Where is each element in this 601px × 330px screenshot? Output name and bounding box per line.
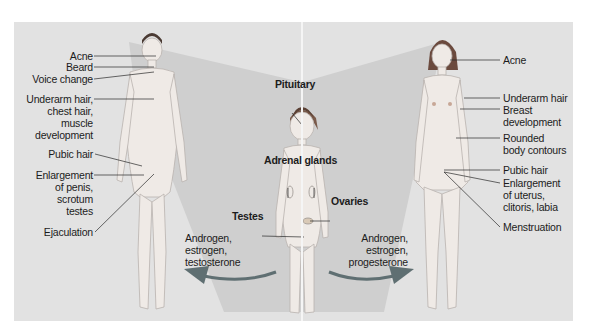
male-label-enlargement: Enlargement of penis, scrotum testes (10, 169, 93, 217)
male-label-voice-change: Voice change (20, 73, 93, 85)
panel-divider (301, 22, 303, 321)
diagram-artwork (14, 22, 573, 321)
female-label-acne: Acne (503, 54, 526, 66)
female-label-enlargement: Enlargement of uterus, clitoris, labia (503, 177, 560, 213)
female-label-underarm-hair: Underarm hair (503, 92, 568, 104)
female-label-breast-development: Breast development (503, 104, 561, 128)
male-arrowhead (184, 266, 209, 284)
male-label-pubic-hair: Pubic hair (20, 148, 93, 160)
female-label-pubic-hair: Pubic hair (503, 164, 548, 176)
child-label-ovaries: Ovaries (331, 195, 368, 207)
child-label-adrenal-glands: Adrenal glands (264, 154, 337, 166)
female-arrowhead (389, 266, 414, 284)
diagram-panel (14, 22, 573, 321)
female-label-rounded-contours: Rounded body contours (503, 132, 566, 156)
child-label-testes: Testes (232, 210, 263, 222)
male-label-underarm-chest-muscle: Underarm hair, chest hair, muscle develo… (10, 93, 93, 141)
child-label-pituitary: Pituitary (275, 78, 315, 90)
male-label-beard: Beard (20, 61, 93, 73)
male-label-ejaculation: Ejaculation (20, 226, 93, 238)
female-hormones-label: Androgen, estrogen, progesterone (318, 232, 408, 268)
male-hormones-label: Androgen, estrogen, testosterone (185, 232, 275, 268)
female-label-menstruation: Menstruation (503, 221, 561, 233)
